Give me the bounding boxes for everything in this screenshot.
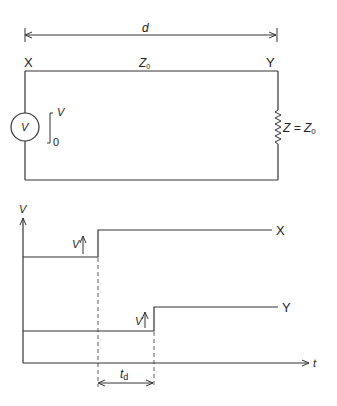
- timing-graph: V t X V Y V td: [19, 203, 317, 387]
- voltage-axis-label: V: [19, 203, 28, 215]
- load-label: Z = Z0: [282, 121, 316, 136]
- trace-x: [23, 230, 272, 257]
- circuit: X Y Z0 V V 0 Z = Z0: [11, 55, 316, 180]
- step-y-label: V: [135, 315, 144, 327]
- step-high-label: V: [57, 106, 66, 118]
- node-y-label: Y: [266, 55, 275, 70]
- length-dimension: d: [25, 21, 277, 42]
- trace-y: [23, 307, 278, 331]
- length-label: d: [142, 21, 149, 35]
- transmission-line-diagram: d X Y Z0 V V 0 Z = Z0 V t X: [0, 0, 337, 406]
- line-impedance-label: Z0: [138, 56, 150, 70]
- trace-x-label: X: [276, 223, 285, 238]
- step-low-label: 0: [53, 136, 59, 148]
- delay-label: td: [120, 367, 128, 382]
- time-axis-label: t: [313, 357, 317, 369]
- load-resistor-icon: [275, 110, 281, 144]
- node-x-label: X: [24, 55, 33, 70]
- source-label: V: [21, 121, 30, 133]
- trace-y-label: Y: [282, 300, 291, 315]
- step-x-label: V: [72, 238, 81, 250]
